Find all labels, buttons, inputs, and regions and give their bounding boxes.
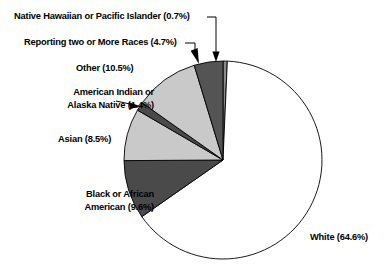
slice-label-text-line2: American (9.6%) (18, 201, 154, 214)
slice-label-other: Other (10.5%) (76, 62, 134, 75)
leader-arrow-two-or-more (191, 48, 199, 64)
leader-arrow-native-hawaiian (212, 52, 219, 63)
slice-label-text: Reporting two or More Races (4.7%) (24, 37, 177, 47)
slice-label-white: White (64.6%) (310, 231, 368, 244)
slice-label-asian: Asian (8.5%) (58, 133, 111, 146)
slice-label-text: Asian (8.5%) (58, 134, 111, 144)
slice-label-text-line1: American Indian or (22, 86, 154, 99)
leader-line-native-hawaiian (207, 17, 216, 52)
slice-label-native-hawaiian-or-pacific-islander: Native Hawaiian or Pacific Islander (0.7… (14, 10, 190, 23)
slice-label-text: Other (10.5%) (76, 63, 134, 73)
slice-label-american-indian-or-alaska-native: American Indian or Alaska Native (1.4%) (22, 86, 154, 111)
slice-label-black-or-african-american: Black or African American (9.6%) (18, 188, 154, 213)
slice-label-text: White (64.6%) (310, 232, 368, 242)
slice-label-text: Native Hawaiian or Pacific Islander (0.7… (14, 11, 190, 21)
slice-label-reporting-two-or-more-races: Reporting two or More Races (4.7%) (24, 36, 177, 49)
slice-label-text-line1: Black or African (18, 188, 154, 201)
slice-label-text-line2: Alaska Native (1.4%) (22, 99, 154, 112)
pie-chart-figure: Native Hawaiian or Pacific Islander (0.7… (0, 0, 390, 277)
